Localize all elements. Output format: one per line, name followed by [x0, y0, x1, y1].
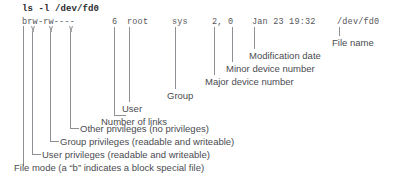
leader-line-minor-device-number [232, 27, 233, 62]
leader-line-group-privileges-arm [50, 141, 59, 142]
annotation-group-privileges: Group privileges (readable and writeable… [60, 136, 234, 147]
annotation-user-privileges: User privileges (readable and writeable) [42, 149, 210, 160]
leader-line-user-privileges-arm [32, 154, 41, 155]
annotation-file-mode: File mode (a “b” indicates a block speci… [14, 162, 204, 173]
ls-long-listing-diagram: ls -l /dev/fd0 brw-rw---- 6 root sys 2, … [0, 0, 397, 178]
leader-line-other-privileges-stem [70, 32, 71, 128]
listing-modification-date: Jan 23 19:32 [252, 17, 316, 27]
leader-line-user-privileges-stem [32, 32, 33, 154]
leader-line-file-mode [23, 26, 24, 166]
leader-line-group-privileges-stem [50, 32, 51, 141]
annotation-modification-date: Modification date [249, 50, 321, 61]
listing-user: root [127, 17, 148, 27]
leader-line-number-of-links [114, 27, 126, 116]
listing-device-numbers: 2, 0 [212, 17, 233, 27]
leader-line-modification-date [254, 27, 255, 49]
annotation-major-device-number: Major device number [205, 76, 294, 87]
leader-line-group [175, 27, 176, 89]
command-line: ls -l /dev/fd0 [22, 4, 99, 14]
leader-line-other-privileges-arm [70, 128, 79, 129]
leader-line-user [129, 27, 130, 102]
annotation-other-privileges: Other privileges (no privileges) [80, 123, 209, 134]
annotation-file-name: File name [332, 37, 374, 48]
listing-link-count: 6 [112, 17, 117, 27]
listing-file-name: /dev/fd0 [337, 17, 379, 27]
leader-line-file-name [339, 27, 340, 36]
annotation-minor-device-number: Minor device number [226, 63, 315, 74]
leader-line-major-device-number [214, 27, 215, 75]
annotation-group: Group [167, 90, 193, 101]
listing-group: sys [172, 17, 188, 27]
